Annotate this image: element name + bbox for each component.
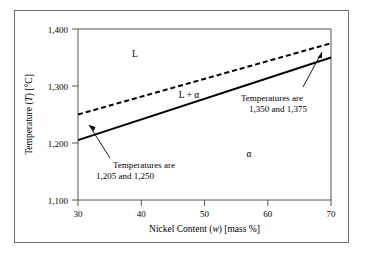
- y-axis-title: Temperature (T) [°C]: [24, 74, 35, 155]
- x-tick-label-70: 70: [327, 209, 337, 219]
- x-tick-label-60: 60: [263, 209, 273, 219]
- right-annotation-leader: [303, 52, 322, 87]
- x-axis-title-post: ) [mass %]: [219, 224, 260, 235]
- region-label-alpha: α: [247, 149, 252, 159]
- y-axis-title-post: ) [°C]: [24, 74, 35, 96]
- y-tick-label-1200: 1,200: [48, 139, 69, 149]
- right-annotation-line1: Temperatures are: [241, 93, 303, 103]
- x-axis-title: Nickel Content (w) [mass %]: [149, 224, 260, 235]
- y-tick-label-1300: 1,300: [48, 82, 69, 92]
- phase-diagram-figure: 1,400 1,300 1,200 1,100 30 40 50 60 70 N…: [0, 0, 365, 256]
- left-annotation-line1: Temperatures are: [113, 160, 175, 170]
- y-axis-title-pre: Temperature (: [24, 101, 35, 154]
- x-axis-title-pre: Nickel Content (: [149, 224, 212, 235]
- x-tick-marks: [78, 200, 331, 206]
- y-tick-label-1100: 1,100: [48, 196, 69, 206]
- left-annotation-line2: 1,205 and 1,250: [96, 171, 154, 181]
- region-label-liquid: L: [132, 49, 138, 59]
- right-annotation-line2: 1,350 and 1,375: [249, 104, 307, 114]
- x-tick-label-40: 40: [137, 209, 147, 219]
- chart-canvas: 1,400 1,300 1,200 1,100 30 40 50 60 70 N…: [0, 0, 365, 256]
- y-tick-label-1400: 1,400: [48, 25, 69, 35]
- region-label-liquid-plus-alpha: L + α: [179, 90, 200, 100]
- x-tick-label-30: 30: [74, 209, 84, 219]
- x-tick-label-50: 50: [200, 209, 210, 219]
- y-tick-marks: [72, 29, 78, 200]
